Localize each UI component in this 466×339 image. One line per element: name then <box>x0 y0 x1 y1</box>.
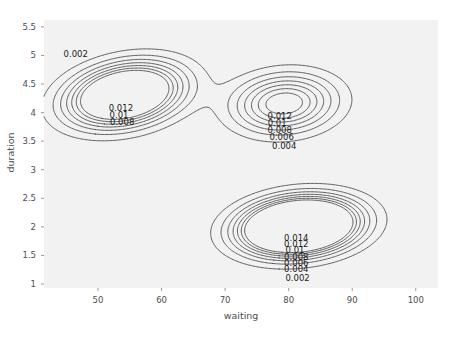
x-tick-80: 80 <box>274 295 304 305</box>
y-tick-1: 1 <box>6 279 36 289</box>
contour-label-low-002: 0.002 <box>280 273 316 283</box>
x-tick-100: 100 <box>401 295 431 305</box>
y-axis-tick-marks <box>41 27 44 284</box>
contour-plot-figure: 5.554.543.532.521.51 5060708090100 0.002… <box>0 0 466 339</box>
y-axis-title: duration <box>5 113 16 193</box>
x-axis-title: waiting <box>0 310 466 321</box>
x-tick-70: 70 <box>210 295 240 305</box>
x-tick-50: 50 <box>83 295 113 305</box>
x-axis-tick-marks <box>98 288 416 291</box>
contour-label-outer-left: 0.002 <box>58 49 94 59</box>
y-tick-2.5: 2.5 <box>6 193 36 203</box>
y-tick-4.5: 4.5 <box>6 79 36 89</box>
contour-label-left-008: 0.008 <box>104 117 140 127</box>
x-tick-60: 60 <box>147 295 177 305</box>
y-tick-5: 5 <box>6 50 36 60</box>
y-tick-1.5: 1.5 <box>6 250 36 260</box>
plot-panel-background <box>44 20 438 288</box>
y-tick-2: 2 <box>6 222 36 232</box>
y-tick-5.5: 5.5 <box>6 22 36 32</box>
x-tick-90: 90 <box>337 295 367 305</box>
contour-label-mid-004: 0.004 <box>266 141 302 151</box>
